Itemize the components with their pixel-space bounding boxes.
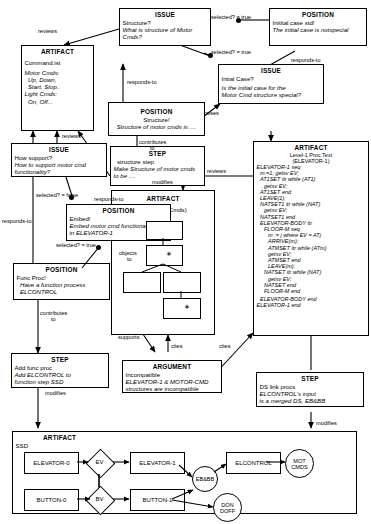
node-line: ELCONTROL's input <box>257 390 363 397</box>
node-type-label: POSITION <box>109 103 204 116</box>
node-type-label: ISSUE <box>120 9 210 19</box>
edge-label-selected-true-1: selected? = true <box>211 14 251 20</box>
node-type-label: ISSUE <box>219 65 323 75</box>
ssd-box-elcontrol[interactable]: ELCONTROL <box>226 452 281 474</box>
node-line: How support? <box>12 154 106 161</box>
edge-label-reviews-top: reviews <box>38 28 57 34</box>
edge-label-responds-to-1: responds-to <box>127 79 157 85</box>
node-line: On, Off... <box>22 98 93 105</box>
node-position-func-proc[interactable]: POSITION Func Proc! Have a function proc… <box>13 263 110 300</box>
node-line: Add func proc <box>12 364 108 371</box>
ssd-box-elevator-0[interactable]: ELEVATOR-0 <box>24 452 79 474</box>
node-line: Light Cmds: <box>22 90 93 97</box>
edge-label-selected-true-2: selected? = true <box>211 49 251 55</box>
node-type-label: ISSUE <box>12 144 106 154</box>
node-line: Up, Down, <box>22 76 93 83</box>
node-line: Func Proc! <box>14 274 109 281</box>
ssd-diamond-bv-label: BV <box>90 496 109 502</box>
node-issue-initial-case[interactable]: ISSUE Intial Case? Is the initial case f… <box>218 64 324 104</box>
ssd-circle-mot-cmds[interactable]: MOT CMDS <box>285 449 314 478</box>
decision-dot-selected-false <box>69 195 74 200</box>
node-line: functionality? <box>12 168 106 175</box>
edge-label-modifies-1: modifies <box>152 179 173 185</box>
node-type-label: POSITION <box>270 9 366 19</box>
ssd-circle-don-doff[interactable]: DON DOFF <box>213 493 242 522</box>
node-artifact-level1-proc-text[interactable]: ARTIFACT Level-1 Proc Text (ELEVATOR-1) … <box>253 141 369 336</box>
node-line: Intial Case? <box>219 75 323 82</box>
node-type-label: ARTIFACT <box>22 46 93 56</box>
node-line: Motor Cmd structure special? <box>219 91 323 98</box>
edge-label-reviews-left: reviews <box>62 133 81 139</box>
sd-tree-node-5 <box>163 298 201 319</box>
edge-label-supports: supports <box>118 334 139 340</box>
node-line: Cmds? <box>120 33 210 40</box>
edge-label-reviews-right: reviews <box>207 168 226 174</box>
sd-tree-star-1: ∗ <box>166 250 172 257</box>
sd-tree-node-2 <box>146 245 183 266</box>
sd-tree-node-4 <box>163 272 201 293</box>
ssd-box-button-1[interactable]: BUTTON-1 <box>130 489 185 511</box>
node-type-label: STEP <box>111 147 204 158</box>
node-step-add-func-proc[interactable]: STEP Add func proc Add ELCONTROL to func… <box>11 353 109 388</box>
edge-label-modifies-2: modifies <box>45 390 66 396</box>
node-line: Motor Cmds: <box>22 66 93 76</box>
edge-label-contributes-to-2b: to <box>51 316 56 322</box>
node-line: function step SSD <box>12 378 108 385</box>
node-type-label: STEP <box>12 354 108 364</box>
ssd-box-label: ELEVATOR-1 <box>139 460 175 467</box>
node-line: DS link procs <box>257 383 363 390</box>
node-line: ELEVATOR-1 & MOTOR-CMD <box>123 378 221 385</box>
node-argument-incompatible[interactable]: ARGUMENT Incompatible ELEVATOR-1 & MOTOR… <box>122 360 222 393</box>
decision-dot-selected-true-3 <box>96 245 101 250</box>
node-type-label: STEP <box>257 373 363 383</box>
node-line: Structure of motor cmds is .... <box>109 123 204 130</box>
edge-label-responds-to-4: responds-to <box>2 218 32 224</box>
node-line: Have a function process <box>14 281 109 288</box>
decision-dot-selected-true-2 <box>208 53 213 58</box>
node-type-label: POSITION <box>67 205 170 215</box>
ssd-box-label: BUTTON-0 <box>37 497 67 504</box>
node-line: Start, Stop.. <box>22 83 93 90</box>
node-line: Structure? <box>120 19 210 26</box>
node-line: Initital case std! <box>270 19 366 26</box>
node-line: Make Structure of motor cmds <box>111 165 204 172</box>
edge-label-responds-to-2: responds-to <box>291 57 321 63</box>
sd-tree-star-2: ∗ <box>184 303 190 310</box>
node-line: Add ELCONTROL to <box>12 371 108 378</box>
edge-label-objects-to-b: to <box>127 256 132 262</box>
ssd-box-button-0[interactable]: BUTTON-0 <box>24 489 79 511</box>
node-issue-structure[interactable]: ISSUE Structure? What is structure of Mo… <box>119 8 211 46</box>
sd-tree-node-root <box>146 221 183 240</box>
node-type-label: ARTIFACT <box>112 191 214 203</box>
node-type-label: POSITION <box>14 264 109 274</box>
node-line: How to support motor cmd <box>12 161 106 168</box>
node-line: structures are incompatible <box>123 385 221 392</box>
node-step-ds-link-procs[interactable]: STEP DS link procs ELCONTROL's input is … <box>256 372 364 407</box>
ssd-box-label: ELCONTROL <box>235 460 272 467</box>
edge-label-cites-2: cites <box>219 343 231 349</box>
ssd-box-label: ELEVATOR-0 <box>33 460 69 467</box>
node-issue-how-support[interactable]: ISSUE How support? How to support motor … <box>11 143 107 177</box>
node-position-structure[interactable]: POSITION Structure! Structure of motor c… <box>108 102 205 136</box>
ssd-circle-ebbb[interactable]: EB&BB <box>192 466 218 492</box>
ssd-circle-label: MOT CMDS <box>286 458 313 470</box>
node-type-label: ARTIFACT <box>13 432 356 442</box>
edge-label-contributes-to-1b: to <box>150 145 155 151</box>
sd-tree-node-3 <box>123 272 161 293</box>
node-artifact-commandlist[interactable]: ARTIFACT Command.ist Motor Cmds: Up, Dow… <box>21 45 94 131</box>
ssd-circle-label: DON DOFF <box>214 502 241 514</box>
node-line: Incompatible <box>123 371 221 378</box>
ssd-box-elevator-1[interactable]: ELEVATOR-1 <box>130 452 185 474</box>
node-type-label: ARTIFACT <box>254 142 368 152</box>
node-line: ELCONTROL <box>14 288 109 295</box>
node-line: What is structure of Motor <box>120 26 210 33</box>
node-line: Is the initial case for the <box>219 82 323 91</box>
edge-label-responds-to-3: responds-to <box>94 196 124 202</box>
edge-label-modifies-3: modifies <box>316 420 337 426</box>
node-line: The initial case is notspecial <box>270 26 366 33</box>
node-line: SSD <box>13 442 356 449</box>
node-line: Structure! <box>109 116 204 123</box>
ssd-box-label: BUTTON-1 <box>143 497 173 504</box>
node-position-initial-case-std[interactable]: POSITION Initital case std! The initial … <box>269 8 367 46</box>
ssd-diamond-ev-label: EV <box>90 459 109 465</box>
